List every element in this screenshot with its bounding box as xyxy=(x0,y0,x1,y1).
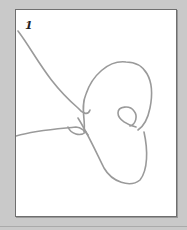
illustration-panel: 1 xyxy=(15,9,177,217)
divider xyxy=(0,226,187,227)
cord-illustration xyxy=(16,10,176,216)
